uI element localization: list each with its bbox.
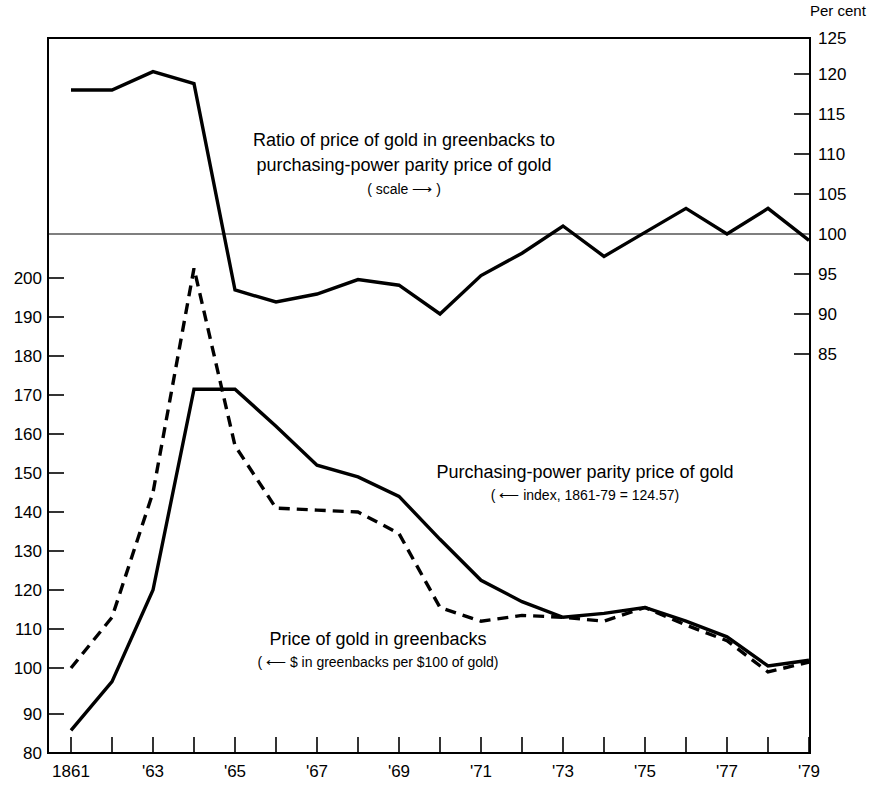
x-tick-label-1861: 1861 [52,762,90,781]
right-tick-label-105: 105 [818,185,846,204]
left-tick-label-120: 120 [14,581,42,600]
x-tick-label-1871: '71 [470,762,492,781]
annotation-ratio-line2: purchasing-power parity price of gold [256,155,551,175]
left-tick-label-170: 170 [14,386,42,405]
right-tick-label-125: 125 [818,29,846,48]
left-tick-label-190: 190 [14,308,42,327]
right-tick-label-110: 110 [818,145,845,164]
annotation-ratio-line1: Ratio of price of gold in greenbacks to [253,130,555,150]
annotation-greenbacks-line1: Price of gold in greenbacks [269,629,486,649]
left-tick-label-150: 150 [14,464,42,483]
right-tick-label-95: 95 [818,265,837,284]
right-axis: 125 120 115 110 105 100 95 90 85 [794,29,846,364]
annotation-purchasing-power-parity: Purchasing-power parity price of gold ( … [436,462,733,503]
left-axis: 200 190 180 170 160 150 140 130 120 110 … [14,269,64,763]
gold-price-chart: Per cent 200 190 180 170 160 15 [0,0,878,785]
left-tick-label-100: 100 [14,659,42,678]
left-tick-label-160: 160 [14,425,42,444]
right-axis-unit-label: Per cent [810,2,867,19]
left-tick-label-110: 110 [15,620,42,639]
bottom-tick-group [71,737,809,753]
left-tick-label-80: 80 [23,744,42,763]
annotation-ratio: Ratio of price of gold in greenbacks to … [253,130,555,197]
right-tick-label-120: 120 [818,65,846,84]
left-tick-label-90: 90 [23,705,42,724]
left-tick-label-130: 130 [14,542,42,561]
annotation-ppp-index-hint: ( ⟵ index, 1861-79 = 124.57) [491,487,680,503]
left-tick-label-180: 180 [14,347,42,366]
series-line-purchasing-power-parity [71,389,809,730]
x-tick-label-1863: '63 [142,762,164,781]
x-tick-label-1867: '67 [306,762,328,781]
right-tick-label-100: 100 [818,225,846,244]
right-tick-label-115: 115 [818,105,845,124]
x-tick-label-1877: '77 [716,762,738,781]
x-tick-label-1869: '69 [388,762,410,781]
left-tick-label-200: 200 [14,269,42,288]
right-tick-label-85: 85 [818,345,837,364]
left-tick-group [48,278,64,714]
chart-container: Per cent 200 190 180 170 160 15 [0,0,878,785]
annotation-greenbacks-unit-hint: ( ⟵ $ in greenbacks per $100 of gold) [257,654,498,670]
x-tick-label-1879: '79 [798,762,820,781]
right-tick-group [794,74,810,354]
annotation-ppp-line1: Purchasing-power parity price of gold [436,462,733,482]
bottom-axis: 1861 '63 '65 '67 '69 '71 '73 '75 '77 '79 [52,737,820,781]
x-tick-label-1875: '75 [634,762,656,781]
x-tick-label-1873: '73 [552,762,574,781]
annotation-greenbacks: Price of gold in greenbacks ( ⟵ $ in gre… [257,629,498,670]
right-tick-label-90: 90 [818,305,837,324]
annotation-ratio-scale-hint: ( scale ⟶ ) [367,181,441,197]
x-tick-label-1865: '65 [224,762,246,781]
left-tick-label-140: 140 [14,503,42,522]
